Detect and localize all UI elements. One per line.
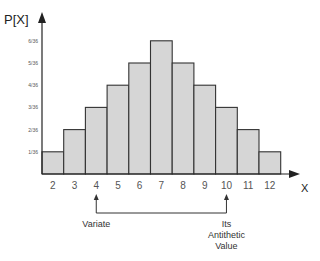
x-tick-label: 9	[202, 180, 208, 191]
x-tick-label: 2	[50, 180, 56, 191]
annotation-label: Its	[222, 219, 232, 229]
x-tick-label: 7	[159, 180, 165, 191]
bar-12	[259, 152, 281, 174]
antithetic-connector	[96, 197, 226, 213]
bar-9	[194, 85, 216, 174]
bar-4	[85, 107, 107, 174]
bar-6	[129, 63, 151, 174]
bar-2	[42, 152, 64, 174]
y-tick-label: 6/36	[28, 38, 38, 44]
annotation-label: Antithetic	[208, 230, 246, 240]
y-tick-label: 4/36	[28, 82, 38, 88]
bar-8	[172, 63, 194, 174]
y-axis-label: P[X]	[4, 12, 29, 27]
x-tick-label: 6	[137, 180, 143, 191]
x-tick-label: 10	[221, 180, 233, 191]
bar-11	[237, 130, 259, 174]
x-axis-label: X	[301, 182, 309, 194]
x-tick-label: 8	[180, 180, 186, 191]
y-axis-arrow-icon	[38, 12, 46, 23]
y-tick-label: 1/36	[28, 149, 38, 155]
y-tick-label: 5/36	[28, 60, 38, 66]
x-tick-label: 11	[243, 180, 254, 191]
probability-histogram: 1/362/363/364/365/366/36 23456789101112 …	[0, 0, 320, 261]
x-axis-arrow-icon	[289, 170, 300, 178]
x-tick-label: 4	[93, 180, 99, 191]
x-tick-label: 5	[115, 180, 121, 191]
annotation-arrow-icon	[94, 194, 99, 200]
annotation-arrow-icon	[224, 194, 229, 200]
y-tick-label: 3/36	[28, 104, 38, 110]
bar-10	[216, 107, 238, 174]
x-tick-label: 12	[264, 180, 276, 191]
x-tick-label: 3	[72, 180, 78, 191]
bar-3	[64, 130, 86, 174]
bar-5	[107, 85, 129, 174]
annotation-label: Variate	[82, 219, 110, 229]
bar-7	[151, 41, 173, 174]
y-tick-label: 2/36	[28, 127, 38, 133]
annotation-label: Value	[215, 241, 237, 251]
